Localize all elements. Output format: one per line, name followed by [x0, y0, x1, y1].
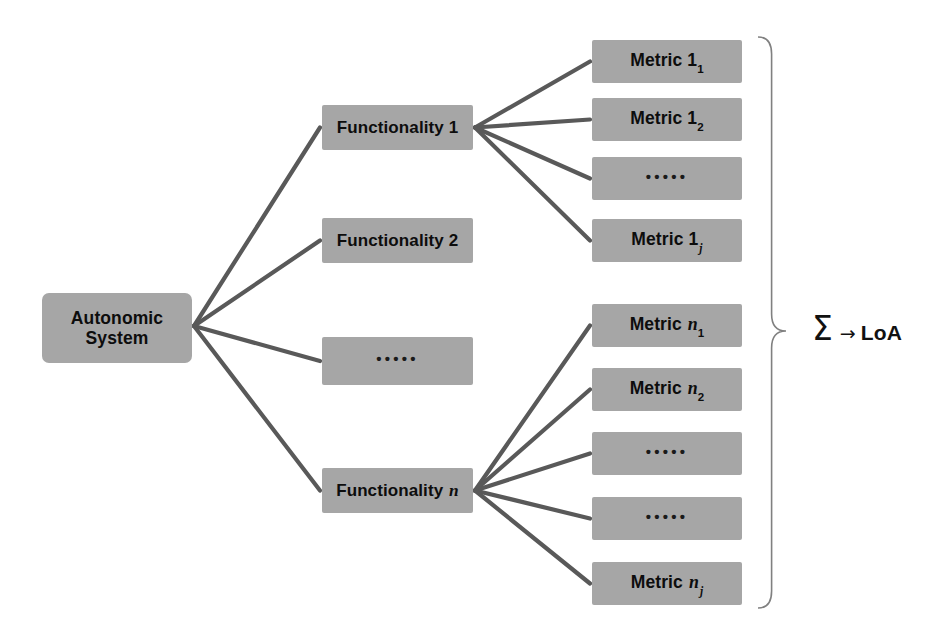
node-metric-1-2[interactable]: Metric 12 — [592, 98, 742, 141]
node-functionality-ellipsis[interactable]: ••••• — [322, 337, 473, 385]
node-metric-n-ellipsis-2[interactable]: ••••• — [592, 497, 742, 540]
connector-line — [194, 128, 320, 327]
metric-1-1-label: Metric 11 — [630, 50, 703, 74]
arrow-right-icon: → — [833, 322, 861, 344]
node-metric-n-1[interactable]: Metric n1 — [592, 304, 742, 347]
metric-n-ellipsis-2-label: ••••• — [646, 508, 688, 528]
metric-1-2-label: Metric 12 — [630, 108, 703, 132]
connector-line — [475, 128, 590, 179]
node-functionality-1[interactable]: Functionality 1 — [322, 105, 473, 150]
node-metric-n-2[interactable]: Metric n2 — [592, 368, 742, 411]
functionality-2-label: Functionality 2 — [337, 231, 458, 251]
metric-n-1-label: Metric n1 — [630, 314, 705, 338]
functionality-ellipsis-label: ••••• — [376, 351, 418, 371]
diagram-canvas: Autonomic System Functionality 1 Functio… — [0, 0, 940, 625]
connector-line — [475, 128, 590, 241]
node-functionality-n[interactable]: Functionality n — [322, 468, 473, 513]
connector-line — [475, 120, 590, 128]
metric-n-j-label: Metric nj — [631, 572, 703, 596]
node-metric-n-ellipsis-1[interactable]: ••••• — [592, 432, 742, 475]
root-label-line1: Autonomic — [71, 308, 163, 328]
connector-line — [475, 491, 590, 519]
node-metric-1-1[interactable]: Metric 11 — [592, 40, 742, 83]
connector-line — [194, 326, 320, 361]
connector-line — [475, 62, 590, 128]
connector-line — [475, 491, 590, 584]
connector-line — [475, 454, 590, 491]
metric-n-2-label: Metric n2 — [630, 378, 705, 402]
metric-1-j-label: Metric 1j — [631, 229, 702, 253]
node-autonomic-system[interactable]: Autonomic System — [42, 293, 192, 363]
node-metric-1-ellipsis[interactable]: ••••• — [592, 157, 742, 200]
aggregation-label: Σ → LoA — [812, 312, 902, 345]
root-label-line2: System — [86, 328, 149, 348]
node-metric-n-j[interactable]: Metric nj — [592, 562, 742, 605]
metric-n-ellipsis-1-label: ••••• — [646, 443, 688, 463]
connector-line — [194, 241, 320, 327]
sigma-icon: Σ — [812, 312, 833, 345]
connector-line — [475, 326, 590, 491]
functionality-n-label: Functionality n — [336, 481, 459, 501]
metric-1-ellipsis-label: ••••• — [646, 168, 688, 188]
node-metric-1-j[interactable]: Metric 1j — [592, 219, 742, 262]
connector-line — [475, 390, 590, 491]
grouping-brace — [758, 37, 786, 608]
connector-line — [194, 326, 320, 491]
loa-label: LoA — [861, 321, 902, 345]
functionality-1-label: Functionality 1 — [337, 118, 458, 138]
node-functionality-2[interactable]: Functionality 2 — [322, 218, 473, 263]
